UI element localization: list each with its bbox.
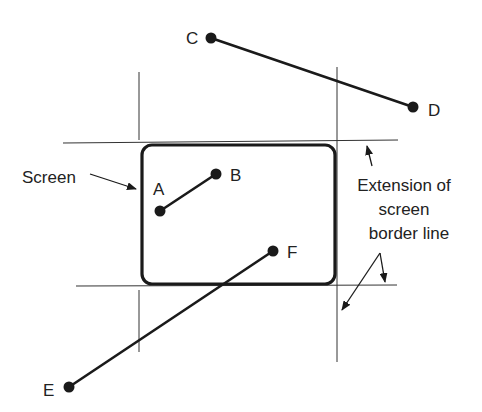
screen-label: Screen bbox=[22, 168, 76, 187]
label-d: D bbox=[428, 101, 440, 120]
point-f-dot bbox=[268, 246, 279, 257]
segment-c-d bbox=[211, 38, 413, 107]
extension-label: Extension of screen border line bbox=[357, 176, 451, 243]
label-a: A bbox=[153, 180, 165, 199]
segment-a-b bbox=[160, 174, 216, 211]
point-a-dot bbox=[155, 206, 166, 217]
point-e-dot bbox=[64, 382, 75, 393]
clipping-diagram: A B C D E F Screen Extension of screen b… bbox=[0, 0, 482, 412]
extension-lines bbox=[63, 67, 398, 362]
endpoints bbox=[64, 33, 419, 393]
line-segments bbox=[69, 38, 413, 387]
screen-pointer-arrow bbox=[90, 174, 136, 189]
extension-label-line-3: border line bbox=[369, 224, 449, 243]
arrow-to-right-line bbox=[342, 253, 380, 310]
arrow-to-bottom-line bbox=[380, 253, 385, 282]
label-c: C bbox=[186, 29, 198, 48]
segment-e-f bbox=[69, 251, 273, 387]
label-b: B bbox=[230, 166, 241, 185]
point-d-dot bbox=[408, 102, 419, 113]
label-e: E bbox=[43, 381, 54, 400]
point-b-dot bbox=[211, 169, 222, 180]
extension-label-line-2: screen bbox=[378, 200, 429, 219]
arrow-to-top-line bbox=[367, 146, 372, 166]
extension-label-line-1: Extension of bbox=[357, 176, 451, 195]
point-c-dot bbox=[206, 33, 217, 44]
top-extension-line bbox=[63, 140, 398, 143]
label-f: F bbox=[287, 243, 297, 262]
